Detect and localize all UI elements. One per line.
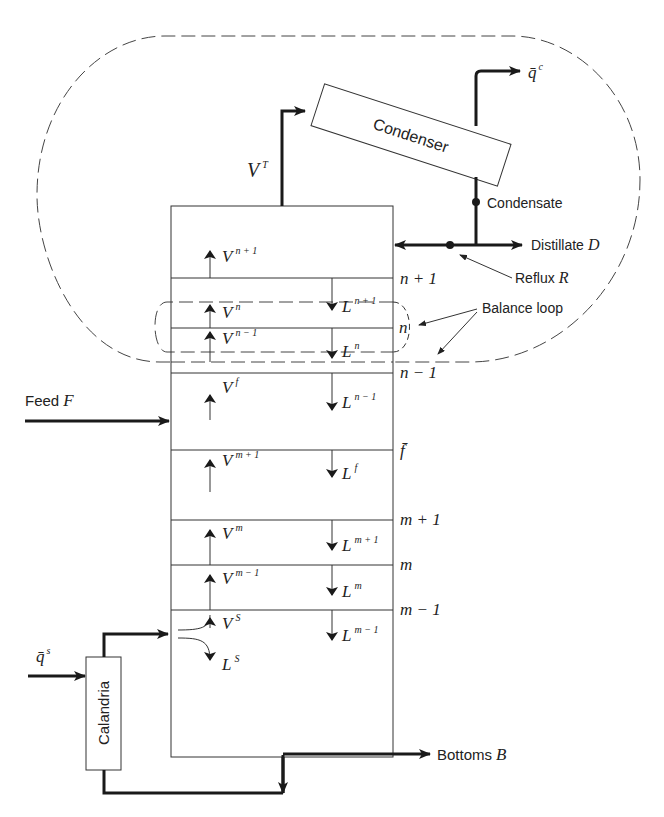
svg-text:Vf: Vf — [222, 376, 239, 397]
svg-text:Vm + 1: Vm + 1 — [222, 449, 259, 470]
calandria-feed-line — [104, 770, 283, 793]
distillation-diagram: Vn + 1 Vn Vn − 1 Vf Vm + 1 Vm Vm − 1 VS … — [0, 0, 664, 817]
svg-text:VS: VS — [222, 612, 240, 633]
svg-text:n: n — [399, 318, 408, 337]
feed-label: FeedF — [25, 391, 74, 410]
svg-text:Lm: Lm — [341, 580, 362, 601]
reflux-pointer — [460, 255, 512, 278]
svg-text:n + 1: n + 1 — [400, 269, 437, 288]
column — [171, 206, 393, 757]
svg-text:Ln − 1: Ln − 1 — [341, 391, 376, 412]
vapor-top-label: VT — [247, 159, 269, 181]
condenser: Condenser — [311, 84, 511, 186]
bottoms-label: BottomsB — [437, 745, 507, 764]
reflux-label: RefluxR — [515, 269, 569, 286]
overhead-vapor-line — [282, 111, 305, 206]
svg-text:Ln: Ln — [341, 340, 359, 361]
svg-text:Vn: Vn — [222, 301, 240, 322]
tray-lines — [171, 278, 393, 610]
svg-text:Vn + 1: Vn + 1 — [222, 245, 257, 266]
svg-text:Vn − 1: Vn − 1 — [222, 327, 257, 348]
svg-text:Vm − 1: Vm − 1 — [222, 567, 259, 588]
stage-labels: n + 1 n n − 1 f̄ m + 1 m m − 1 — [399, 269, 441, 619]
svg-text:Ln + 1: Ln + 1 — [341, 295, 376, 316]
svg-text:m: m — [400, 555, 412, 574]
svg-text:n − 1: n − 1 — [400, 363, 437, 382]
svg-text:Lm − 1: Lm − 1 — [341, 624, 378, 645]
svg-text:Vm: Vm — [222, 522, 243, 543]
svg-text:m − 1: m − 1 — [400, 600, 441, 619]
reboiler-duty-label: q̄s — [36, 645, 51, 666]
distillate-label: DistillateD — [531, 236, 600, 253]
vapor-labels: Vn + 1 Vn Vn − 1 Vf Vm + 1 Vm Vm − 1 VS — [222, 245, 259, 633]
reflux-node — [446, 241, 454, 249]
vapor-arrows — [178, 251, 210, 630]
svg-text:Lm + 1: Lm + 1 — [341, 534, 378, 555]
balance-loop-pointer-small — [419, 309, 477, 325]
condenser-duty-line — [476, 71, 520, 126]
calandria-label: Calandria — [95, 680, 112, 745]
calandria-return-line — [104, 634, 168, 657]
svg-text:m + 1: m + 1 — [400, 510, 441, 529]
balance-loop-label: Balance loop — [482, 300, 563, 316]
svg-text:LS: LS — [221, 653, 239, 674]
condenser-duty-label: q̄c — [528, 61, 544, 82]
condensate-node — [472, 198, 480, 206]
condensate-label: Condensate — [487, 195, 563, 211]
svg-text:f̄: f̄ — [400, 441, 408, 460]
svg-text:Lf: Lf — [341, 462, 358, 483]
